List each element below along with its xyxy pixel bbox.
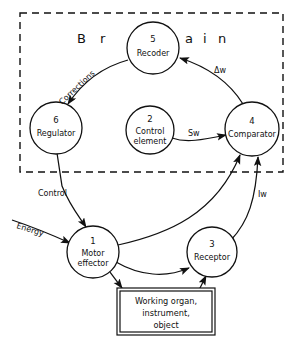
edge-label-control: Control [38, 189, 67, 198]
recoder-number: 5 [150, 34, 155, 44]
edge-label-corrections: Corrections [57, 69, 96, 107]
regulator-label: Regulator [37, 129, 76, 138]
edge-motor-effector-to-working-organ [110, 272, 122, 288]
comparator-circle[interactable] [225, 102, 279, 156]
control-element-label-line1: Control [136, 127, 165, 136]
recoder-label: Recoder [137, 49, 170, 58]
edge-label-energy: Energy [15, 221, 45, 238]
brain-title-letter-r: r [100, 31, 106, 46]
control-element-number: 2 [147, 114, 152, 124]
brain-title-letter-a: a [185, 31, 193, 46]
receptor-circle[interactable] [187, 227, 237, 277]
receptor-label: Receptor [194, 253, 231, 262]
motor-effector-label-line2: effector [77, 259, 109, 268]
edge-motor-effector-to-receptor [116, 262, 189, 274]
working-organ-line3: object [153, 320, 179, 330]
brain-title-letter-i: i [203, 31, 207, 46]
working-organ-line1: Working organ, [135, 296, 197, 306]
node-motor-effector[interactable]: 1 Motor effector [67, 226, 119, 278]
control-element-label-line2: element [134, 137, 167, 146]
edge-label-iw: Iw [258, 190, 267, 199]
motor-effector-label-line1: Motor [81, 249, 105, 258]
brain-title-letter-n: n [218, 31, 226, 46]
node-recoder[interactable]: 5 Recoder [127, 22, 179, 74]
edge-receptor-to-comparator [231, 157, 258, 240]
edge-label-delta-w: Δw [214, 66, 226, 75]
node-comparator[interactable]: 4 Comparator [225, 102, 279, 156]
motor-effector-number: 1 [90, 236, 95, 246]
block-diagram: B r a i n 5 Recoder [0, 0, 300, 343]
node-control-element[interactable]: 2 Control element [126, 106, 174, 154]
edge-label-sw: Sw [188, 129, 200, 138]
regulator-number: 6 [53, 115, 58, 125]
node-receptor[interactable]: 3 Receptor [187, 227, 237, 277]
edge-comparator-to-recoder [180, 58, 243, 104]
working-organ-box[interactable]: Working organ, instrument, object [117, 288, 215, 335]
working-organ-line2: instrument, [142, 308, 190, 318]
comparator-number: 4 [249, 116, 254, 126]
regulator-circle[interactable] [30, 102, 82, 154]
node-regulator[interactable]: 6 Regulator [30, 102, 82, 154]
comparator-label: Comparator [228, 130, 276, 139]
brain-title-letter-b: B [77, 31, 86, 46]
receptor-number: 3 [209, 239, 214, 249]
recoder-circle[interactable] [127, 22, 179, 74]
diagram-canvas: B r a i n 5 Recoder [0, 0, 300, 343]
